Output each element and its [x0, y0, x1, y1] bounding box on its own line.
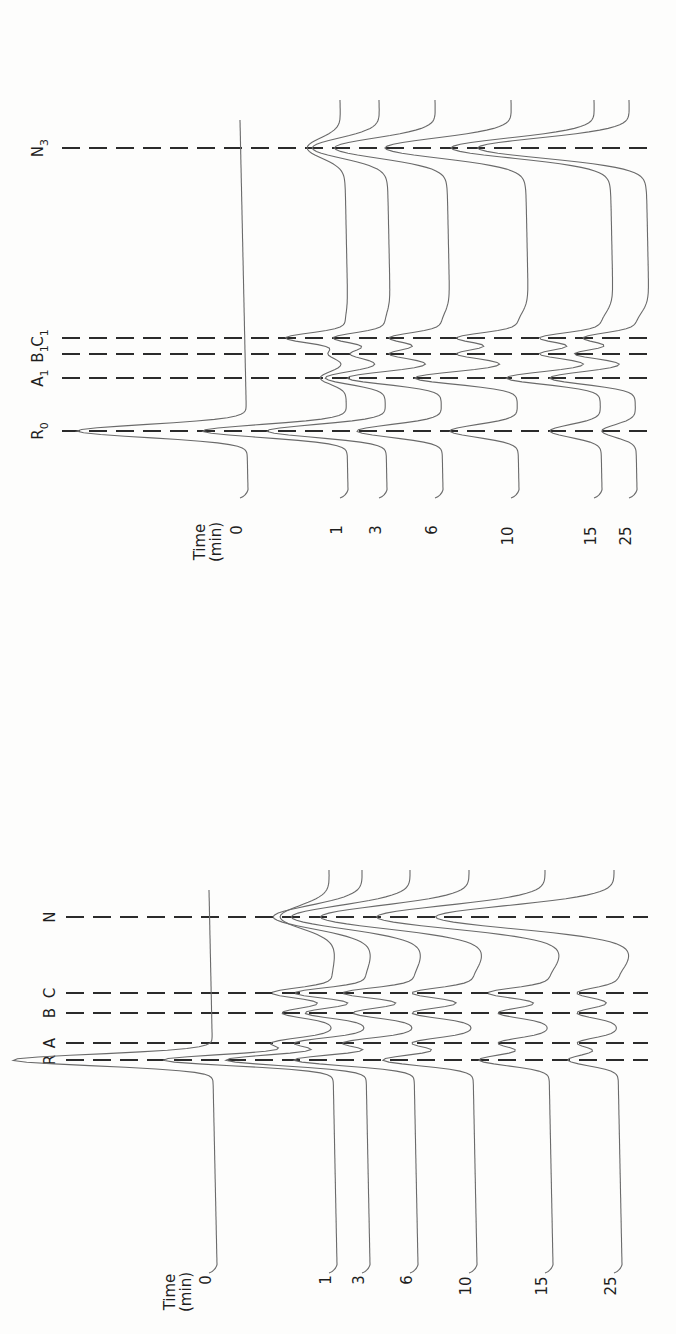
trace-tail [240, 490, 248, 498]
trace-tail [629, 490, 637, 498]
trace-tail [614, 1265, 622, 1273]
top-panel-traces: R0A1B1C1N30136101525Time(min) [29, 100, 648, 562]
trace-25-min [436, 870, 629, 1265]
time-label-15: 15 [533, 1276, 551, 1295]
trace-15-min [377, 870, 559, 1265]
reference-label-a: A1 [29, 369, 51, 386]
trace-tail [209, 1265, 217, 1273]
reference-label-a: A [41, 1037, 59, 1048]
figure: R0A1B1C1N30136101525Time(min) RABCN01361… [0, 0, 676, 1334]
trace-tail [469, 1265, 477, 1273]
trace-tail [379, 490, 387, 498]
time-label-10: 10 [499, 526, 517, 545]
reference-label-n: N [41, 911, 59, 922]
reference-label-b: B [41, 1008, 59, 1018]
time-label-1: 1 [317, 1275, 335, 1285]
trace-tail [511, 490, 519, 498]
time-label-25: 25 [602, 1276, 620, 1295]
time-label-0: 0 [228, 525, 246, 535]
bottom-panel-traces: RABCN0136101525Time(min) [13, 870, 648, 1312]
time-axis-unit: (min) [207, 522, 225, 562]
time-label-0: 0 [197, 1275, 215, 1285]
trace-tail [545, 1265, 553, 1273]
reference-label-b: B1 [29, 345, 51, 362]
time-label-1: 1 [328, 525, 346, 535]
trace-tail [435, 490, 443, 498]
trace-tail [362, 1265, 370, 1273]
time-label-6: 6 [398, 1275, 416, 1285]
trace-tail [329, 1265, 337, 1273]
trace-tail [410, 1265, 418, 1273]
time-label-3: 3 [350, 1275, 368, 1285]
time-label-15: 15 [582, 526, 600, 545]
time-label-25: 25 [617, 526, 635, 545]
time-label-3: 3 [367, 525, 385, 535]
densitometer-traces-figure: R0A1B1C1N30136101525Time(min) RABCN01361… [0, 0, 676, 1334]
trace-tail [594, 490, 602, 498]
reference-label-c: C [41, 988, 59, 998]
trace-tail [340, 490, 348, 498]
reference-label-c: C1 [29, 329, 51, 346]
reference-label-n: N3 [29, 139, 51, 157]
trace-0-min [13, 890, 217, 1265]
time-label-10: 10 [457, 1276, 475, 1295]
time-label-6: 6 [423, 525, 441, 535]
reference-label-r: R0 [29, 422, 51, 439]
time-axis-unit: (min) [177, 1272, 195, 1312]
